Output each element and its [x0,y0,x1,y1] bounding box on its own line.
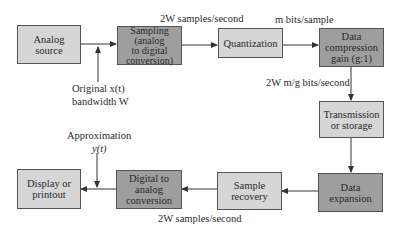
sampling-block: Sampling (analog to digital conversion) [117,26,182,65]
sample-recovery-label: Sample recovery [231,180,268,202]
bits-per-sample-label: m bits/sample [275,14,334,25]
data-compression-label: Data compression gain (g:1) [325,31,378,64]
sampling-label: Sampling (analog to digital conversion) [126,26,173,66]
digital-to-analog-block: Digital to analog conversion [116,170,182,209]
original-signal-label-2: bandwidth W [72,96,129,107]
approximation-label-1: Approximation [67,130,131,141]
analog-source-block: Analog source [17,25,81,64]
display-label: Display or printout [27,178,71,200]
sample-recovery-block: Sample recovery [217,172,282,210]
data-compression-block: Data compression gain (g:1) [319,28,384,67]
display-block: Display or printout [17,169,81,209]
digital-to-analog-label: Digital to analog conversion [126,173,172,206]
transmission-label: Transmission or storage [323,109,379,131]
original-signal-label-1: Original x(t) [72,83,125,94]
rate-top-label: 2W samples/second [160,13,244,24]
data-expansion-label: Data expansion [329,182,372,204]
quantization-block: Quantization [218,28,283,58]
approximation-label-2: y(t) [92,143,107,154]
pcm-block-diagram: Analog source Sampling (analog to digita… [0,0,399,238]
rate-bottom-label: 2W samples/second [158,213,242,224]
analog-source-label: Analog source [34,34,65,56]
compressed-rate-label: 2W m/g bits/second [266,77,350,88]
data-expansion-block: Data expansion [318,173,383,212]
quantization-label: Quantization [223,38,277,49]
transmission-block: Transmission or storage [319,101,384,138]
